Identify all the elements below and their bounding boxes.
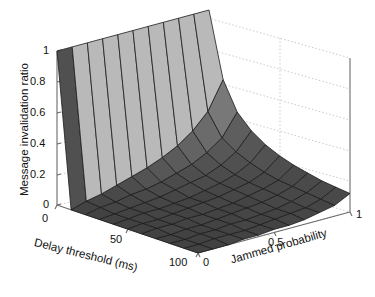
x-tick-100: 100 [169, 256, 187, 268]
z-tick-02: 0.2 [30, 168, 45, 180]
x-tick-50: 50 [110, 233, 122, 245]
x-tick-0: 0 [42, 212, 48, 224]
z-axis-title: Message invalidation ratio [18, 63, 30, 196]
z-tick-08: 0.8 [30, 75, 45, 87]
z-tick-06: 0.6 [30, 106, 45, 118]
y-tick-0: 0 [203, 256, 209, 268]
z-tick-1: 1 [43, 44, 49, 56]
figure-3d-surface-plot: 1 0.8 0.6 0.4 0.2 0 0 50 100 0 0.5 1 Mes… [0, 0, 375, 297]
z-tick-04: 0.4 [30, 137, 45, 149]
z-tick-0: 0 [43, 198, 49, 210]
y-tick-1: 1 [356, 208, 362, 220]
surface-mesh [57, 10, 350, 253]
